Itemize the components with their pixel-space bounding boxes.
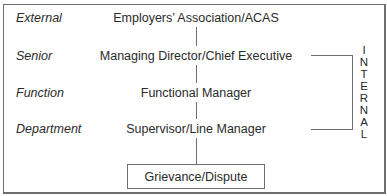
connector-external-senior	[196, 27, 197, 46]
internal-letter: L	[361, 128, 367, 140]
node-managing-director: Managing Director/Chief Executive	[100, 49, 292, 63]
node-supervisor: Supervisor/Line Manager	[126, 122, 266, 136]
internal-letter: R	[360, 92, 368, 104]
internal-label: I N T E R N A L	[358, 44, 370, 140]
internal-letter: A	[360, 116, 368, 128]
level-label-function: Function	[16, 86, 64, 100]
level-label-external: External	[16, 11, 62, 25]
grievance-dispute-label: Grievance/Dispute	[145, 170, 248, 184]
connector-senior-function	[196, 65, 197, 83]
internal-letter: T	[360, 68, 367, 80]
internal-letter: I	[362, 44, 365, 56]
connector-function-department	[196, 102, 197, 119]
level-label-department: Department	[16, 122, 81, 136]
node-functional-manager: Functional Manager	[141, 86, 251, 100]
bracket-vertical-line	[352, 55, 353, 130]
connector-department-grievance	[196, 138, 197, 164]
level-label-senior: Senior	[16, 49, 52, 63]
node-employers-association: Employers’ Association/ACAS	[113, 11, 279, 25]
bracket-top-line	[311, 55, 353, 56]
internal-letter: N	[360, 104, 368, 116]
internal-letter: N	[360, 56, 368, 68]
bracket-bottom-line	[311, 129, 353, 130]
internal-letter: E	[360, 80, 368, 92]
grievance-dispute-box: Grievance/Dispute	[127, 164, 265, 189]
